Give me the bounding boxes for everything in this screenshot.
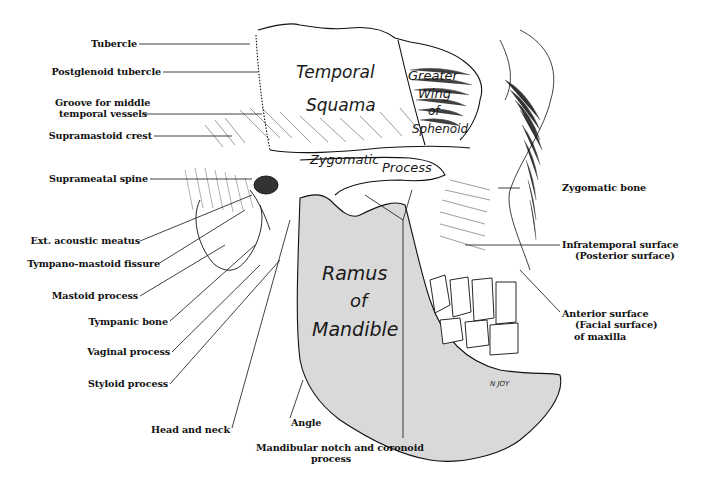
label-supramastoid-crest: Supramastoid crest [49, 130, 152, 141]
teeth [430, 275, 518, 355]
region-temporal: Temporal [296, 62, 375, 82]
label-angle: Angle [291, 417, 321, 428]
label-tubercle: Tubercle [91, 38, 137, 49]
region-greater: Greater [408, 68, 458, 83]
label-ext-acoustic-meatus: Ext. acoustic meatus [30, 235, 140, 246]
region-of-mandible: of [350, 290, 367, 311]
label-zygomatic-bone: Zygomatic bone [562, 182, 646, 193]
label-tympano-mastoid-fissure: Tympano-mastoid fissure [27, 258, 160, 269]
region-mandible: Mandible [312, 318, 398, 340]
region-zygomatic: Zygomatic [310, 152, 379, 167]
region-of: of [428, 104, 440, 118]
region-sphenoid: Sphenoid [412, 122, 468, 136]
zygomatic-maxilla [500, 30, 554, 270]
anatomical-figure: Temporal Squama Greater Wing of Sphenoid… [0, 0, 704, 487]
label-vaginal-process: Vaginal process [87, 346, 170, 357]
hatching-mastoid [185, 168, 253, 212]
label-anterior-line3: of maxilla [574, 331, 626, 342]
label-suprameatal-spine: Suprameatal spine [49, 173, 148, 184]
region-squama: Squama [306, 95, 376, 115]
artist-signature: N JOY [490, 380, 509, 388]
label-anterior-line1: Anterior surface [562, 308, 649, 319]
label-mastoid-process: Mastoid process [52, 290, 138, 301]
label-postglenoid-tubercle: Postglenoid tubercle [51, 66, 161, 77]
region-wing: Wing [418, 86, 451, 101]
hatching-zygomatic [440, 80, 542, 250]
label-tympanic-bone: Tympanic bone [89, 316, 168, 327]
region-process: Process [382, 160, 432, 175]
label-groove-line2: temporal vessels [59, 108, 147, 119]
label-groove-line1: Groove for middle [55, 97, 150, 108]
label-anterior-line2: (Facial surface) [575, 319, 657, 330]
label-infratemporal-line1: Infratemporal surface [562, 239, 679, 250]
label-styloid-process: Styloid process [88, 378, 168, 389]
mastoid-region [196, 176, 278, 270]
region-ramus: Ramus [322, 262, 387, 284]
label-head-and-neck: Head and neck [151, 424, 230, 435]
label-mandibular-notch-line2: process [256, 453, 406, 464]
label-mandibular-notch-line1: Mandibular notch and coronoid [256, 442, 406, 453]
label-infratemporal-line2: (Posterior surface) [575, 250, 675, 261]
